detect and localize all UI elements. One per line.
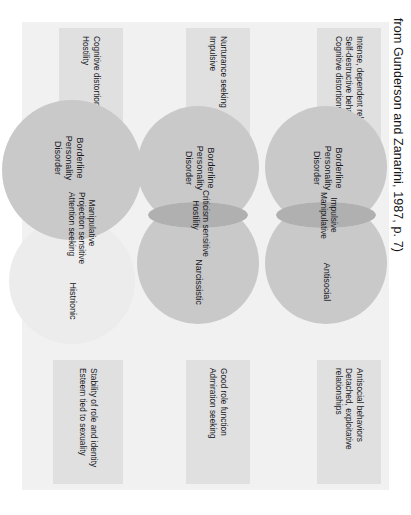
venn2-overlap-label: Criticism sensitiveHostility bbox=[191, 190, 211, 240]
venn2-right-label: Narcissistic bbox=[193, 240, 204, 324]
venn1-right-label: Antisocial bbox=[321, 240, 332, 324]
source-credit: from Gunderson and Zanarini, 1987, p. 7) bbox=[391, 18, 405, 252]
venn-diagram-histrionic: BorderlinePersonalityDisorder Manipulati… bbox=[11, 100, 133, 344]
right-chip-histrionic-features: Stability of role and identityEsteem tie… bbox=[53, 360, 123, 484]
venn3-left-label: BorderlinePersonalityDisorder bbox=[52, 118, 85, 198]
venn-diagram-narcissistic: BorderlinePersonalityDisorder Criticism … bbox=[137, 106, 259, 338]
venn-diagram-antisocial: BorderlinePersonalityDisorder ImpulsiveM… bbox=[265, 106, 387, 338]
left-chip-2-text: Nurturance seekingImpulsive bbox=[207, 28, 228, 114]
venn1-overlap-label: ImpulsiveManipulative bbox=[319, 192, 339, 238]
right-chip-narcissistic-features: Good role functionAdmiration seeking bbox=[186, 360, 250, 484]
rotated-slide-stage: from Gunderson and Zanarini, 1987, p. 7)… bbox=[0, 0, 411, 515]
venn3-right-label: Histrionic bbox=[67, 266, 78, 336]
right-chip-antisocial-features: Antisocial behaviorsDetached, exploitati… bbox=[317, 360, 381, 484]
right-chip-3-text: Stability of role and identityEsteem tie… bbox=[77, 360, 98, 473]
venn3-overlap-label: ManipulativeProjection sensitiveAttentio… bbox=[67, 192, 97, 254]
right-chip-2-text: Good role functionAdmiration seeking bbox=[207, 360, 228, 445]
right-chip-1-text: Antisocial behaviorsDetached, exploitati… bbox=[333, 360, 365, 456]
